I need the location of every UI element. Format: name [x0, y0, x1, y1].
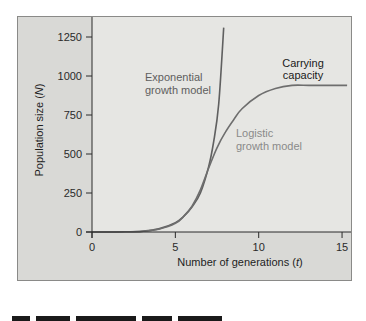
annotation-carrying-capacity: Carryingcapacity [282, 57, 324, 81]
x-tick-label: 0 [89, 241, 95, 253]
x-tick-label: 5 [172, 241, 178, 253]
y-tick-label: 1250 [58, 31, 82, 43]
annotation-exponential: Exponentialgrowth model [145, 71, 211, 96]
plot-area [92, 17, 351, 232]
population-growth-chart: 025050075010001250 051015 Number of gene… [0, 0, 366, 321]
y-tick-label: 1000 [58, 70, 82, 82]
y-tick-label: 500 [64, 148, 82, 160]
x-axis-label: Number of generations (t) [177, 256, 302, 268]
y-tick-label: 250 [64, 187, 82, 199]
x-tick-label: 15 [336, 241, 348, 253]
y-axis-label: Population size (N) [33, 84, 45, 177]
x-tick-label: 10 [253, 241, 265, 253]
x-ticks: 051015 [89, 232, 348, 253]
figure-caption-cutoff [12, 308, 352, 321]
y-ticks: 025050075010001250 [58, 31, 92, 238]
y-tick-label: 0 [76, 226, 82, 238]
y-tick-label: 750 [64, 109, 82, 121]
